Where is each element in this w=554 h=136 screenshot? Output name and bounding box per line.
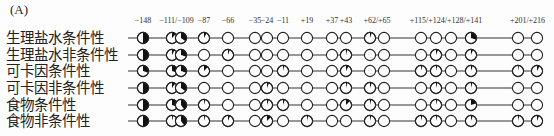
cpg-site-circle — [198, 49, 209, 60]
cpg-site-circle — [222, 49, 233, 60]
cpg-site-circle — [261, 99, 272, 110]
cpg-site-circle — [415, 49, 426, 60]
cpg-site-circle — [261, 82, 272, 93]
cpg-site-circle — [249, 49, 260, 60]
cpg-site-circle — [198, 65, 209, 76]
cpg-site-circle — [340, 49, 351, 60]
cpg-site-circle — [512, 32, 523, 43]
cpg-site-circle — [137, 115, 148, 126]
cpg-site-circle — [340, 65, 351, 76]
cpg-site-circle — [364, 99, 375, 110]
sample-row: 食物非条件性 — [6, 113, 543, 129]
cpg-site-circle — [301, 99, 312, 110]
cpg-site-circle — [277, 99, 288, 110]
cpg-site-circle — [465, 65, 476, 76]
cpg-site-circle — [445, 65, 456, 76]
cpg-site-circle — [326, 65, 337, 76]
cpg-site-circle — [430, 115, 441, 126]
cpg-site-circle — [222, 82, 233, 93]
cpg-site-circle — [531, 49, 542, 60]
cpg-site-circle — [364, 65, 375, 76]
cpg-site-circle — [326, 49, 337, 60]
cpg-site-circle — [430, 82, 441, 93]
cpg-site-circle — [277, 32, 288, 43]
sample-row: 可卡因非条件性 — [6, 80, 543, 96]
cpg-site-circle — [222, 65, 233, 76]
site-label: −66 — [222, 16, 235, 25]
cpg-site-circle — [175, 65, 186, 76]
cpg-site-circle — [364, 49, 375, 60]
cpg-site-circle — [415, 115, 426, 126]
site-label: +62/+65 — [363, 16, 390, 25]
fill-wedge — [143, 115, 149, 126]
cpg-site-circle — [531, 115, 542, 126]
cpg-site-circle — [531, 99, 542, 110]
cpg-site-circle — [378, 82, 389, 93]
cpg-site-circle — [445, 49, 456, 60]
cpg-site-circle — [222, 32, 233, 43]
row-label: 可卡因非条件性 — [6, 80, 104, 96]
sample-row: 生理盐水非条件性 — [6, 47, 543, 63]
cpg-site-circle — [378, 32, 389, 43]
site-label: −87 — [198, 16, 211, 25]
cpg-site-circle — [277, 115, 288, 126]
row-label: 食物非条件性 — [6, 113, 90, 129]
cpg-site-circle — [222, 99, 233, 110]
row-label: 生理盐水条件性 — [6, 30, 104, 46]
cpg-site-circle — [175, 49, 186, 60]
cpg-site-circle — [277, 82, 288, 93]
cpg-site-circle — [378, 65, 389, 76]
cpg-site-circle — [137, 99, 148, 110]
cpg-site-circle — [512, 115, 523, 126]
cpg-site-circle — [340, 32, 351, 43]
cpg-site-circle — [175, 115, 186, 126]
cpg-site-circle — [445, 99, 456, 110]
fill-wedge — [143, 99, 149, 110]
cpg-site-circle — [364, 82, 375, 93]
cpg-site-circle — [430, 99, 441, 110]
cpg-site-circle — [531, 65, 542, 76]
cpg-site-circle — [261, 115, 272, 126]
cpg-site-circle — [512, 65, 523, 76]
cpg-site-circle — [249, 99, 260, 110]
cpg-site-circle — [364, 115, 375, 126]
cpg-site-circle — [445, 115, 456, 126]
cpg-site-circle — [249, 115, 260, 126]
cpg-site-circle — [326, 82, 337, 93]
cpg-site-circle — [137, 32, 148, 43]
row-label: 食物条件性 — [6, 97, 76, 113]
cpg-site-circle — [261, 32, 272, 43]
site-label: −24 — [261, 16, 274, 25]
site-label: −11 — [277, 16, 289, 25]
cpg-site-circle — [340, 99, 351, 110]
site-label: −35 — [249, 16, 262, 25]
cpg-site-circle — [378, 99, 389, 110]
site-label: +19 — [301, 16, 314, 25]
sample-rows: 生理盐水条件性生理盐水非条件性可卡因条件性可卡因非条件性食物条件性食物非条件性 — [6, 30, 543, 129]
cpg-site-circle — [326, 99, 337, 110]
cpg-site-circle — [465, 32, 476, 43]
cpg-site-circle — [301, 82, 312, 93]
cpg-site-circle — [261, 49, 272, 60]
fill-wedge — [143, 82, 149, 93]
cpg-site-circle — [430, 32, 441, 43]
cpg-site-circle — [340, 82, 351, 93]
cpg-site-circle — [249, 65, 260, 76]
cpg-site-circle — [175, 99, 186, 110]
fill-wedge — [143, 32, 149, 43]
cpg-site-circle — [301, 65, 312, 76]
cpg-site-circle — [415, 65, 426, 76]
cpg-site-circle — [465, 99, 476, 110]
cpg-site-circle — [137, 49, 148, 60]
cpg-site-circle — [198, 99, 209, 110]
cpg-site-circle — [531, 82, 542, 93]
cpg-site-circle — [512, 82, 523, 93]
cpg-site-circle — [512, 49, 523, 60]
cpg-site-circle — [222, 115, 233, 126]
cpg-site-circle — [137, 65, 148, 76]
sample-row: 食物条件性 — [6, 97, 543, 113]
cpg-site-circle — [378, 49, 389, 60]
cpg-site-circle — [198, 82, 209, 93]
site-label: +43 — [340, 16, 353, 25]
row-label: 可卡因条件性 — [6, 63, 90, 79]
